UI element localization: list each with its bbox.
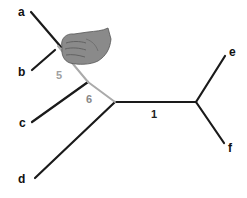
edge-a xyxy=(31,12,61,47)
tip-label-c: c xyxy=(19,116,26,130)
branch-label-6: 6 xyxy=(86,93,92,105)
tree-diagram: a b c d e f 5 6 1 xyxy=(0,0,247,198)
branch-label-5: 5 xyxy=(56,69,62,81)
tip-label-e: e xyxy=(229,45,236,59)
branch-label-1: 1 xyxy=(151,108,157,120)
tip-label-b: b xyxy=(18,65,25,79)
edge-c xyxy=(32,82,88,122)
edge-f xyxy=(196,102,224,143)
edge-e xyxy=(196,56,225,102)
hand-grab-icon[interactable] xyxy=(62,28,111,64)
edge-d xyxy=(35,102,115,178)
tip-label-f: f xyxy=(228,141,233,155)
edge-b xyxy=(32,50,55,70)
tree-canvas: a b c d e f 5 6 1 xyxy=(0,0,247,198)
tip-label-a: a xyxy=(18,5,25,19)
tip-label-d: d xyxy=(18,172,25,186)
